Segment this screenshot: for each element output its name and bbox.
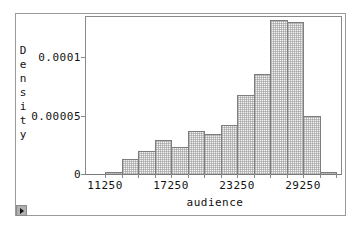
x-tick-mark xyxy=(237,174,238,178)
x-tick-mark xyxy=(270,174,271,178)
x-tick-mark xyxy=(188,174,189,178)
x-tick-label: 17250 xyxy=(153,179,189,192)
x-tick-mark xyxy=(122,174,123,178)
histogram-bar xyxy=(287,22,304,174)
x-tick-label: 23250 xyxy=(219,179,255,192)
y-tick-mark xyxy=(81,116,85,117)
histogram-bar xyxy=(155,140,172,174)
x-axis-title: audience xyxy=(187,196,244,209)
histogram-bar xyxy=(254,74,271,174)
histogram-bar xyxy=(237,95,255,174)
x-tick-mark xyxy=(320,174,321,178)
y-axis-title-letter: e xyxy=(17,58,29,72)
y-axis-title-letter: t xyxy=(17,114,29,128)
x-tick-mark xyxy=(336,174,337,178)
histogram-bar xyxy=(204,134,222,174)
histogram-bar xyxy=(122,159,139,174)
histogram-bar xyxy=(138,151,156,174)
x-tick-label: 11250 xyxy=(87,179,123,192)
y-tick-label: 0 xyxy=(74,168,81,181)
y-tick-label: 0.00005 xyxy=(31,110,81,123)
x-tick-label: 29250 xyxy=(285,179,321,192)
y-axis-title: Density xyxy=(17,44,29,142)
y-tick-mark xyxy=(81,57,85,58)
y-axis-title-letter: y xyxy=(17,128,29,142)
x-tick-mark xyxy=(155,174,156,178)
x-tick-mark xyxy=(138,174,139,178)
y-tick-mark xyxy=(81,174,85,175)
play-icon[interactable] xyxy=(16,205,27,216)
x-tick-mark xyxy=(221,174,222,178)
x-tick-mark xyxy=(254,174,255,178)
histogram-bar xyxy=(221,125,238,174)
x-tick-mark xyxy=(105,174,106,178)
x-tick-mark xyxy=(287,174,288,178)
histogram-bar xyxy=(270,20,288,174)
histogram-bar xyxy=(303,116,321,174)
y-axis-title-letter: i xyxy=(17,100,29,114)
y-axis-title-letter: D xyxy=(17,44,29,58)
y-tick-label: 0.0001 xyxy=(38,51,81,64)
x-tick-mark xyxy=(171,174,172,178)
x-tick-mark xyxy=(204,174,205,178)
histogram-bar xyxy=(171,147,189,174)
y-axis-title-letter: s xyxy=(17,86,29,100)
y-axis-title-letter: n xyxy=(17,72,29,86)
histogram-bar xyxy=(188,131,205,174)
x-tick-mark xyxy=(303,174,304,178)
